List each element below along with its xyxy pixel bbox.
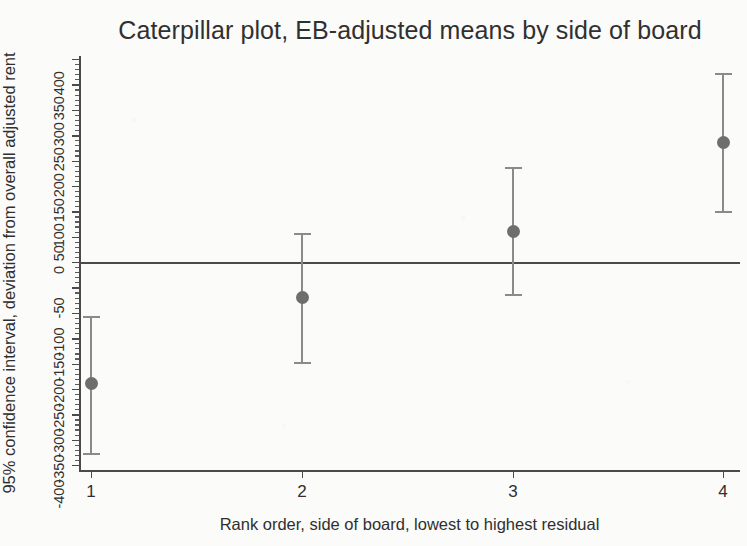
y-tick-minor <box>75 379 79 380</box>
y-tick-minor <box>75 450 79 451</box>
ci-upper-cap <box>83 316 100 318</box>
y-tick-minor <box>75 176 79 177</box>
x-tick-label: 4 <box>703 482 743 502</box>
y-tick-minor <box>75 79 79 80</box>
y-tick-label-text: 350 <box>51 96 67 120</box>
y-tick-major <box>72 186 79 187</box>
y-tick-label-text: 0 <box>51 266 67 274</box>
y-tick-major <box>72 84 79 85</box>
y-tick-label-text: -100 <box>51 327 67 356</box>
zero-reference-line <box>79 262 740 264</box>
y-tick-minor <box>75 318 79 319</box>
x-tick <box>513 470 514 478</box>
y-tick-minor <box>75 384 79 385</box>
ci-lower-cap <box>505 294 522 296</box>
ci-lower-cap <box>715 211 732 213</box>
y-tick-minor <box>75 353 79 354</box>
y-tick-minor <box>75 404 79 405</box>
ci-upper-cap <box>294 233 311 235</box>
x-tick <box>723 470 724 478</box>
y-tick-minor <box>75 282 79 283</box>
y-tick-major <box>72 338 79 339</box>
y-tick-minor <box>75 394 79 395</box>
y-tick-major <box>72 110 79 111</box>
y-tick-major <box>72 237 79 238</box>
y-tick-minor <box>75 130 79 131</box>
y-tick-label-text: 300 <box>51 122 67 146</box>
y-tick-minor <box>75 232 79 233</box>
y-tick-label-text: 150 <box>51 198 67 222</box>
y-tick-minor <box>75 145 79 146</box>
y-tick-major <box>72 59 79 60</box>
ci-lower-cap <box>294 362 311 364</box>
y-tick-minor <box>75 221 79 222</box>
x-tick <box>302 470 303 478</box>
y-tick-minor <box>75 323 79 324</box>
y-tick-label-text: 100 <box>51 223 67 247</box>
y-tick-major <box>72 414 79 415</box>
y-tick-minor <box>75 358 79 359</box>
y-tick-minor <box>75 64 79 65</box>
y-tick-major <box>72 287 79 288</box>
y-tick-minor <box>75 155 79 156</box>
y-tick-label-text: -350 <box>51 454 67 483</box>
y-tick-minor <box>75 166 79 167</box>
y-tick-minor <box>75 95 79 96</box>
data-point <box>296 291 309 304</box>
y-tick-major <box>72 161 79 162</box>
y-tick-label-text: -200 <box>51 378 67 407</box>
y-tick-minor <box>75 328 79 329</box>
y-tick-major <box>72 440 79 441</box>
y-tick-minor <box>75 247 79 248</box>
x-tick-label: 2 <box>282 482 322 502</box>
y-tick-label-text: -400 <box>51 480 67 509</box>
y-tick-label-text: 200 <box>51 173 67 197</box>
y-tick-label-text: 250 <box>51 147 67 171</box>
y-tick-minor <box>75 89 79 90</box>
y-tick-minor <box>75 140 79 141</box>
y-tick-label-text: -250 <box>51 403 67 432</box>
y-tick-minor <box>75 348 79 349</box>
y-tick-minor <box>75 272 79 273</box>
y-tick-minor <box>75 115 79 116</box>
y-tick-major <box>72 364 79 365</box>
y-tick-minor <box>75 216 79 217</box>
y-tick-minor <box>75 298 79 299</box>
y-tick-minor <box>75 201 79 202</box>
data-point <box>717 136 730 149</box>
x-axis-title: Rank order, side of board, lowest to hig… <box>79 515 740 534</box>
y-tick-label-text: -300 <box>51 429 67 458</box>
chart-canvas: Caterpillar plot, EB-adjusted means by s… <box>0 0 747 546</box>
y-tick-minor <box>75 292 79 293</box>
y-tick-label-text: 400 <box>51 71 67 95</box>
y-tick-minor <box>75 308 79 309</box>
y-tick-minor <box>75 242 79 243</box>
y-tick-minor <box>75 409 79 410</box>
y-tick-minor <box>75 171 79 172</box>
y-tick-major <box>72 211 79 212</box>
y-axis-title: 95% confidence interval, deviation from … <box>0 0 26 546</box>
y-tick-major <box>72 465 79 466</box>
y-tick-minor <box>75 74 79 75</box>
y-tick-minor <box>75 333 79 334</box>
y-tick-minor <box>75 226 79 227</box>
ci-upper-cap <box>505 167 522 169</box>
y-tick-minor <box>75 419 79 420</box>
y-tick-minor <box>75 181 79 182</box>
y-tick-major <box>72 389 79 390</box>
y-tick-minor <box>75 69 79 70</box>
y-tick-minor <box>75 206 79 207</box>
y-tick-minor <box>75 105 79 106</box>
ci-lower-cap <box>83 453 100 455</box>
y-tick-minor <box>75 445 79 446</box>
y-tick-minor <box>75 100 79 101</box>
y-tick-minor <box>75 435 79 436</box>
ci-upper-cap <box>715 73 732 75</box>
x-tick <box>91 470 92 478</box>
y-tick-minor <box>75 424 79 425</box>
y-tick-minor <box>75 196 79 197</box>
y-tick-minor <box>75 455 79 456</box>
x-axis-line <box>79 470 740 472</box>
plot-area: -400-350-300-250-200-150-100-50050100150… <box>79 40 740 470</box>
y-tick-label-text: -50 <box>51 298 67 319</box>
